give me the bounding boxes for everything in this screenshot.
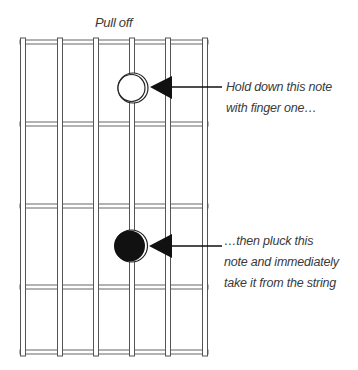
- string-1: [21, 38, 26, 356]
- annotation-line: note and immediately: [224, 252, 339, 273]
- fret-1: [20, 122, 208, 126]
- annotation-pluck-note: …then pluck this note and immediately ta…: [224, 231, 339, 294]
- annotation-line: with finger one…: [226, 98, 332, 119]
- filled-note-marker: [114, 230, 148, 262]
- nut: [20, 40, 208, 44]
- arrowhead-icon: [150, 76, 172, 99]
- string-2: [58, 38, 63, 356]
- arrow-to-open-note: [150, 76, 222, 99]
- fretboard: [0, 0, 358, 370]
- string-6: [203, 38, 208, 356]
- annotation-line: Hold down this note: [226, 77, 332, 98]
- fret-4: [20, 350, 208, 354]
- string-3: [94, 38, 99, 356]
- fret-3: [20, 285, 208, 289]
- fret-2: [20, 204, 208, 208]
- arrowhead-icon: [149, 234, 172, 258]
- open-note-marker: [118, 73, 148, 103]
- strings: [21, 38, 208, 356]
- arrow-to-filled-note: [149, 234, 222, 258]
- annotation-line: …then pluck this: [224, 231, 339, 252]
- annotation-hold-note: Hold down this note with finger one…: [226, 77, 332, 119]
- annotation-line: take it from the string: [224, 273, 339, 294]
